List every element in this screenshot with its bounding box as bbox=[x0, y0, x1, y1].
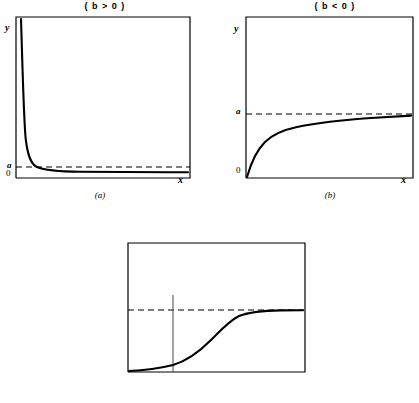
panel-c-curve bbox=[129, 310, 303, 371]
panel-c: y x 1/a 0 (c) bbox=[95, 225, 325, 403]
panel-c-frame bbox=[128, 243, 305, 372]
panel-c-plot bbox=[95, 0, 325, 403]
